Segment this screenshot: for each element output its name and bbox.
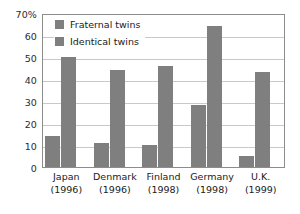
x-axis-category-label: Finland(1998) xyxy=(139,171,188,196)
legend-swatch-icon xyxy=(55,20,64,29)
bar-fraternal xyxy=(45,136,60,167)
bar-group xyxy=(237,15,286,167)
y-axis-tick-label: 0 xyxy=(31,163,37,174)
x-axis-category-label: Denmark(1996) xyxy=(91,171,140,196)
bar-group xyxy=(189,15,238,167)
legend-item-label: Identical twins xyxy=(70,37,139,47)
bar-fraternal xyxy=(94,143,109,167)
y-axis-tick-label: 10 xyxy=(25,141,37,152)
bar-fraternal xyxy=(191,105,206,167)
legend-swatch-icon xyxy=(55,37,64,46)
bar-fraternal xyxy=(142,145,157,167)
bar-group xyxy=(140,15,189,167)
bar-identical xyxy=(158,66,173,167)
y-axis-tick-label: 50 xyxy=(25,53,37,64)
y-axis-tick-label: 30 xyxy=(25,97,37,108)
category-year: (1996) xyxy=(42,184,91,197)
category-name: Germany xyxy=(188,171,237,184)
y-axis-tick-label: 20 xyxy=(25,119,37,130)
x-axis-category-label: U.K.(1999) xyxy=(236,171,285,196)
category-year: (1998) xyxy=(188,184,237,197)
category-name: Denmark xyxy=(91,171,140,184)
legend-item: Fraternal twins xyxy=(54,19,145,31)
category-year: (1998) xyxy=(139,184,188,197)
bar-fraternal xyxy=(239,156,254,167)
y-axis: 010203040506070% xyxy=(0,0,42,214)
x-axis-category-label: Germany(1998) xyxy=(188,171,237,196)
bar-identical xyxy=(255,72,270,167)
y-axis-tick-label: 40 xyxy=(25,75,37,86)
category-year: (1999) xyxy=(236,184,285,197)
chart-legend: Fraternal twinsIdentical twins xyxy=(54,19,145,47)
bar-chart: 010203040506070% Fraternal twinsIdentica… xyxy=(0,0,300,214)
bar-identical xyxy=(61,57,76,167)
bar-identical xyxy=(207,26,222,167)
y-axis-tick-label: 60 xyxy=(25,31,37,42)
category-year: (1996) xyxy=(91,184,140,197)
x-axis-category-label: Japan(1996) xyxy=(42,171,91,196)
category-name: Japan xyxy=(42,171,91,184)
legend-item: Identical twins xyxy=(54,36,145,48)
x-axis: Japan(1996)Denmark(1996)Finland(1998)Ger… xyxy=(42,171,285,211)
category-name: Finland xyxy=(139,171,188,184)
y-axis-tick-label: 70% xyxy=(16,9,37,20)
bar-identical xyxy=(110,70,125,167)
legend-item-label: Fraternal twins xyxy=(70,20,140,30)
category-name: U.K. xyxy=(236,171,285,184)
